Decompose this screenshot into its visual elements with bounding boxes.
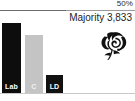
bar-label-lab: Lab	[2, 83, 21, 91]
bar-lab: Lab	[2, 23, 21, 93]
chart-baseline	[0, 93, 135, 94]
threshold-line-left-segment	[0, 10, 66, 11]
majority-caption: Majority 3,833	[69, 12, 132, 24]
bar-c: C	[25, 35, 43, 93]
bar-label-c: C	[25, 83, 43, 91]
labour-rose-icon	[100, 30, 129, 62]
bar-ld: LD	[46, 75, 63, 93]
bar-label-ld: LD	[46, 83, 63, 91]
threshold-label: 50%	[117, 0, 133, 9]
election-result-bar-chart: 50% Majority 3,833 Lab C LD	[0, 0, 135, 101]
